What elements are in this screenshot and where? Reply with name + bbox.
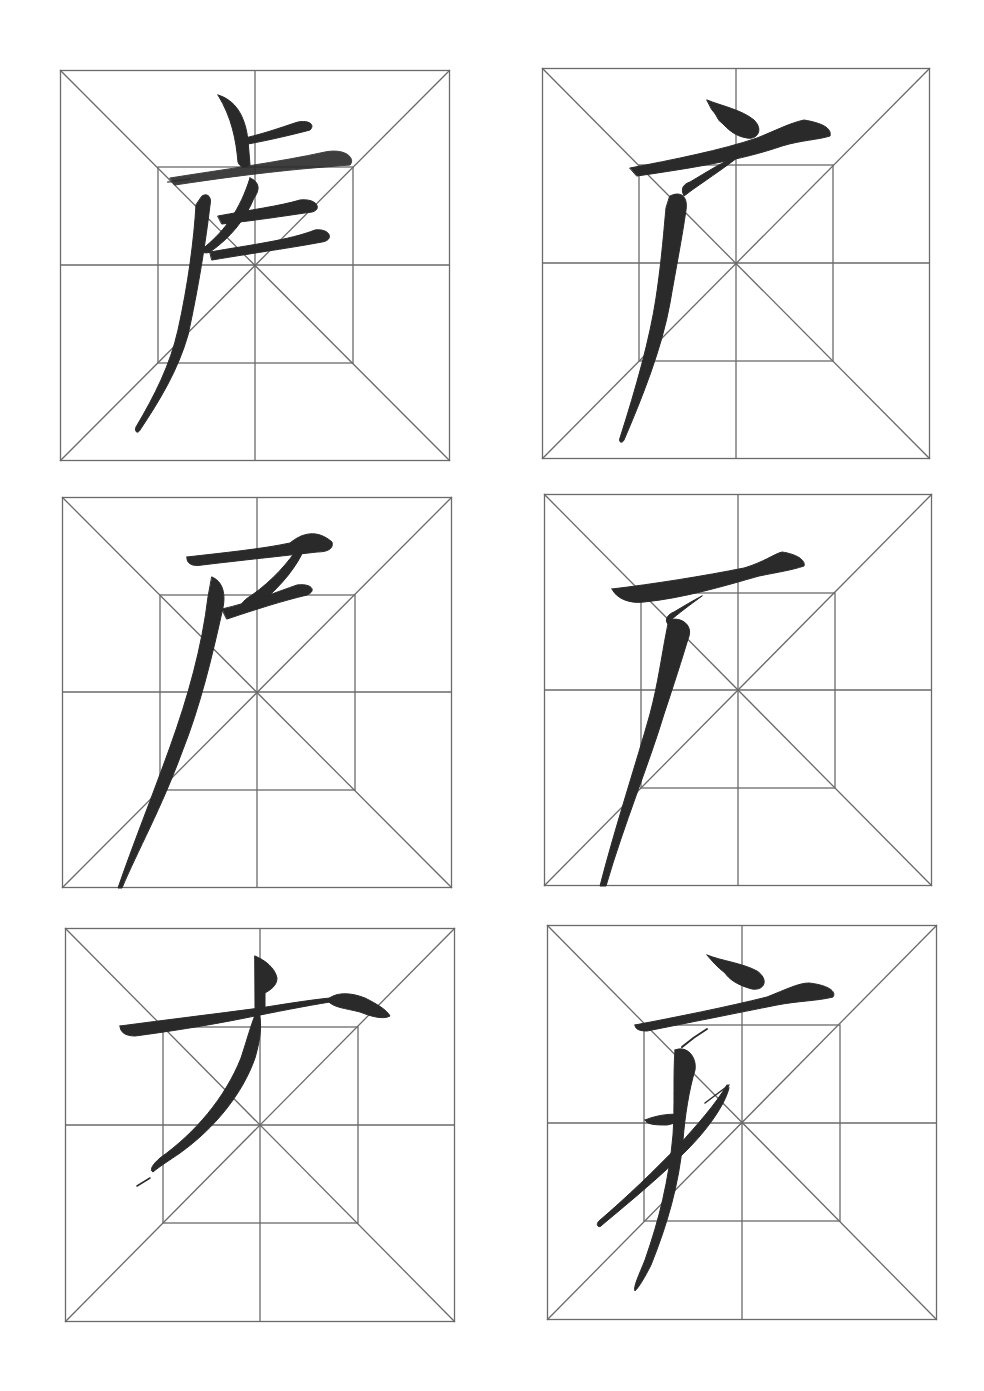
practice-cell-3: 尸-like stroke form (horizontal-turn + le… [62,497,452,888]
practice-cell-5: ナ-like stroke form (horizontal + left-fa… [65,928,455,1322]
mi-grid-4 [544,494,932,886]
practice-cell-2: 广 (dot, horizontal, left-falling) [542,68,930,459]
brush-strokes [135,95,351,432]
mi-grid-2 [542,68,930,459]
practice-cell-4: 厂-like stroke form (horizontal + left-fa… [544,494,932,886]
mi-grid-6 [547,925,937,1320]
brush-strokes [619,100,830,442]
practice-cell-1: 虚 (partial: 虍 radical with stroke compon… [60,70,450,461]
mi-grid-5 [65,928,455,1322]
grid-lines [544,494,932,886]
brush-strokes [118,534,332,888]
mi-grid-1 [60,70,450,461]
brush-strokes [120,956,390,1186]
brush-strokes [600,552,804,886]
grid-lines [60,70,450,461]
calligraphy-practice-sheet: 虚 (partial: 虍 radical with stroke compon… [0,0,984,1391]
mi-grid-3 [62,497,452,888]
practice-cell-6: 庆-like stroke form (广 with 大) [547,925,937,1320]
